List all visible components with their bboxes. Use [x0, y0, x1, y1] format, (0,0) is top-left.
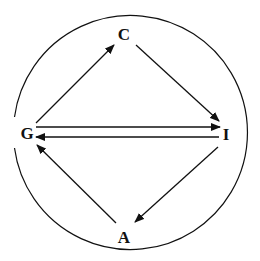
enclosing-circle-arc: [15, 15, 248, 249]
node-g-label: G: [20, 125, 33, 142]
edge-i-to-a: [135, 147, 218, 222]
node-a-label: A: [118, 229, 130, 246]
node-c-label: C: [118, 26, 130, 43]
edge-g-to-c: [36, 45, 114, 123]
edge-c-to-i: [136, 45, 219, 121]
node-i-label: I: [223, 126, 230, 143]
edge-a-to-g: [37, 145, 116, 223]
